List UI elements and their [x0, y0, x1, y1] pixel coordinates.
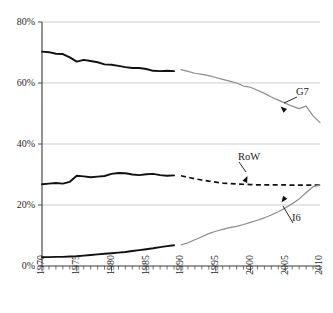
- y-axis-tick-label: 80%: [17, 16, 35, 27]
- x-axis-tick-label: 1985: [140, 255, 151, 275]
- series-line-row-projected: [181, 176, 320, 185]
- x-axis-tick-label: 1975: [70, 255, 81, 275]
- series-line-g7: [42, 52, 174, 72]
- x-axis-tick-label: 2005: [279, 255, 290, 275]
- annotation-label-row: RoW: [238, 151, 260, 162]
- series-line-row: [42, 173, 174, 184]
- x-axis-labels-group: 197019751980198519901995200020052010: [35, 255, 324, 275]
- annotation-label-i6: I6: [292, 212, 301, 223]
- series-annotations-group: G7RoWI6: [238, 86, 309, 223]
- x-axis-tick-label: 1980: [105, 255, 116, 275]
- annotation-leader-g7: [284, 97, 297, 103]
- line-chart: 0%20%40%60%80% 1970197519801985199019952…: [0, 0, 333, 313]
- chart-container: 0%20%40%60%80% 1970197519801985199019952…: [0, 0, 333, 313]
- x-axis-tick-label: 2000: [244, 255, 255, 275]
- x-axis-tick-label: 1990: [174, 255, 185, 275]
- tick-marks-group: [38, 22, 320, 272]
- y-axis-tick-label: 20%: [17, 199, 35, 210]
- x-axis-tick-label: 1995: [209, 255, 220, 275]
- annotation-arrowhead-g7: [279, 105, 287, 113]
- y-axis-tick-label: 40%: [17, 138, 35, 149]
- y-axis-tick-label: 0%: [22, 260, 35, 271]
- annotation-label-g7: G7: [296, 86, 309, 97]
- x-axis-tick-label: 1970: [35, 255, 46, 275]
- annotation-arrowhead-row: [242, 175, 249, 183]
- annotation-arrowhead-i6: [279, 196, 287, 204]
- series-lines-group: [42, 52, 320, 258]
- annotation-leader-row: [239, 162, 246, 172]
- x-axis-tick-label: 2010: [313, 255, 324, 275]
- y-axis-tick-label: 60%: [17, 77, 35, 88]
- y-axis-labels-group: 0%20%40%60%80%: [17, 16, 35, 271]
- gridlines-group: [42, 22, 320, 205]
